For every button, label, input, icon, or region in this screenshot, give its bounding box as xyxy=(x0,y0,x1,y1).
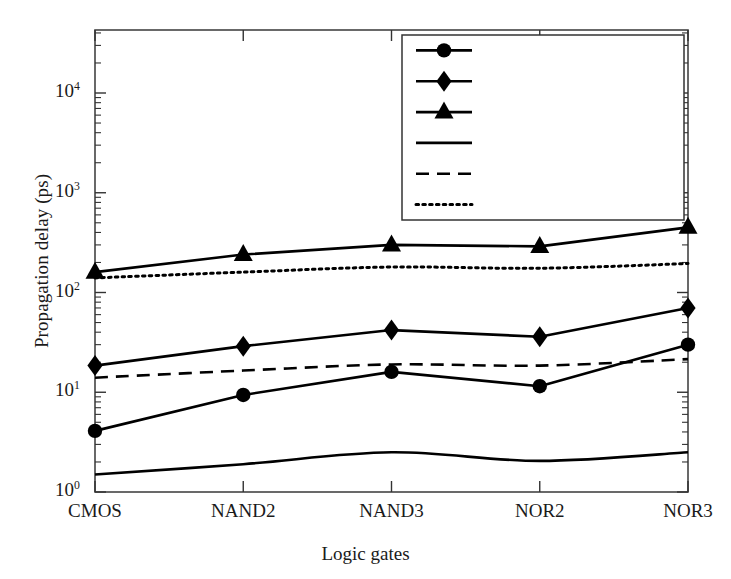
data-point-marker xyxy=(382,234,401,251)
chart-figure: Propagation delay (ps) Logic gates 10010… xyxy=(0,0,731,579)
data-point-marker xyxy=(533,379,547,393)
data-point-marker xyxy=(87,355,102,376)
legend-marker-circle xyxy=(437,43,451,57)
data-point-marker xyxy=(236,336,251,357)
series-line xyxy=(95,452,688,474)
data-point-marker xyxy=(384,365,398,379)
legend-box xyxy=(402,35,684,220)
data-point-marker xyxy=(234,244,253,261)
data-point-marker xyxy=(384,320,399,341)
data-point-marker xyxy=(681,337,695,351)
series-line xyxy=(95,345,688,431)
data-point-marker xyxy=(680,297,695,318)
series-line xyxy=(95,264,688,278)
data-point-marker xyxy=(532,326,547,347)
plot-canvas xyxy=(0,0,731,579)
data-point-marker xyxy=(236,388,250,402)
data-point-marker xyxy=(88,424,102,438)
